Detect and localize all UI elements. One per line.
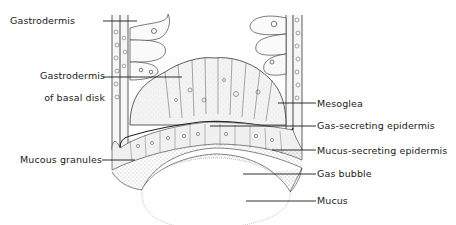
- label-gas-bubble: Gas bubble: [317, 168, 372, 179]
- label-mucous-granules: Mucous granules: [20, 154, 102, 165]
- label-gas-secreting-epidermis: Gas-secreting epidermis: [317, 120, 435, 131]
- label-gastrodermis-basal-disk: Gastrodermis of basal disk: [40, 59, 105, 114]
- label-gastrodermis-basal-disk-line2: of basal disk: [40, 92, 105, 103]
- label-gastrodermis-basal-disk-line1: Gastrodermis: [40, 70, 105, 81]
- label-mucus: Mucus: [317, 195, 348, 206]
- label-mucus-secreting-epidermis: Mucus-secreting epidermis: [317, 145, 447, 156]
- label-gastrodermis: Gastrodermis: [10, 15, 75, 26]
- label-mesoglea: Mesoglea: [317, 98, 363, 109]
- left-body-wall: [112, 15, 128, 150]
- basal-disk-gastrodermis: [130, 57, 286, 125]
